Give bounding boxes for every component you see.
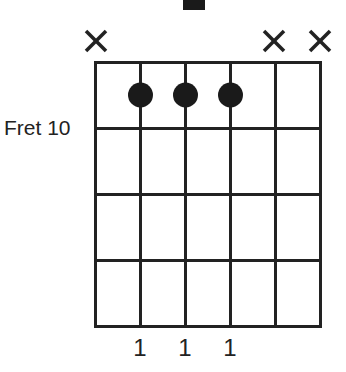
mute-marker-string-1 [86, 31, 106, 51]
finger-number-string-3: 1 [175, 335, 195, 361]
chord-diagram: Fret 10 1 1 1 [0, 0, 346, 372]
frets [95, 129, 321, 261]
fretboard-grid [0, 0, 346, 372]
mute-marker-string-5 [264, 31, 284, 51]
finger-number-string-4: 1 [220, 335, 240, 361]
finger-number-string-2: 1 [130, 335, 150, 361]
finger-dot-string-3 [173, 83, 198, 108]
finger-dot-string-4 [218, 83, 243, 108]
mute-marker-string-6 [310, 31, 330, 51]
finger-dot-string-2 [128, 83, 153, 108]
fret-position-label: Fret 10 [4, 116, 71, 140]
